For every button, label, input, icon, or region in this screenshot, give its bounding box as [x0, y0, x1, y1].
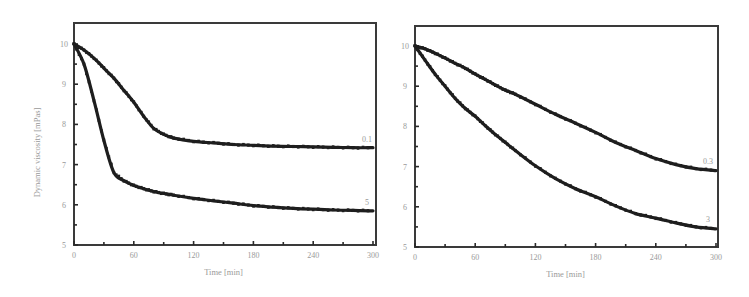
plot-frame: [74, 23, 376, 245]
series-label: 0.3: [703, 157, 713, 166]
y-axis-label: Dynamic viscosity [mPas]: [32, 107, 42, 197]
y-tick-label: 8: [62, 120, 66, 129]
y-tick-label: 8: [403, 122, 407, 131]
x-tick-label: 0: [413, 253, 417, 262]
series-line-0-1: [74, 44, 373, 148]
series-label: 3: [706, 215, 710, 224]
x-tick-label: 60: [471, 253, 479, 262]
y-tick-label: 10: [60, 40, 68, 49]
y-tick-label: 9: [403, 82, 407, 91]
series-markers: [73, 42, 370, 213]
plot-frame: [415, 26, 718, 247]
y-tick-label: 5: [403, 243, 407, 252]
x-tick-label: 300: [367, 251, 379, 260]
y-tick-label: 6: [62, 201, 66, 210]
series-label: 0.1: [362, 135, 372, 144]
x-tick-label: 240: [307, 251, 319, 260]
y-tick-label: 9: [62, 80, 66, 89]
y-tick-label: 6: [403, 203, 407, 212]
x-tick-label: 120: [529, 253, 541, 262]
chart-figure: 5678910060120180240300Time [min]Dynamic …: [0, 0, 749, 297]
series-line-3: [415, 46, 716, 229]
x-tick-label: 60: [130, 251, 138, 260]
x-tick-label: 120: [188, 251, 200, 260]
y-tick-label: 5: [62, 241, 66, 250]
series-label: 5: [365, 198, 369, 207]
x-tick-label: 180: [590, 253, 602, 262]
series-markers: [73, 42, 370, 150]
x-axis-label: Time [min]: [204, 267, 243, 277]
left-chart-panel: 5678910060120180240300Time [min]Dynamic …: [32, 23, 379, 277]
x-tick-label: 180: [247, 251, 259, 260]
series-line-5: [74, 44, 373, 211]
x-tick-label: 240: [650, 253, 662, 262]
series-markers: [414, 44, 713, 230]
x-tick-label: 0: [72, 251, 76, 260]
y-tick-label: 7: [403, 163, 407, 172]
right-chart-panel: 5678910060120180240300Time [min]0.33: [401, 26, 722, 279]
y-tick-label: 10: [401, 42, 409, 51]
x-axis-label: Time [min]: [546, 269, 585, 279]
y-tick-label: 7: [62, 161, 66, 170]
x-tick-label: 300: [710, 253, 722, 262]
